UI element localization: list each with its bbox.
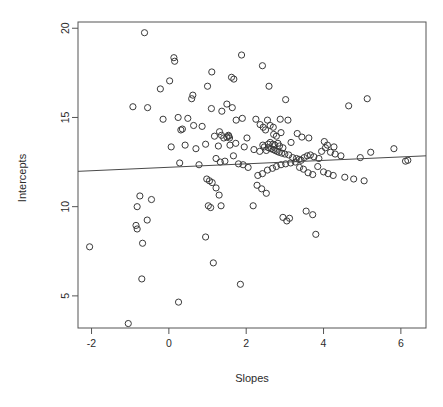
y-tick-label: 20 — [59, 22, 71, 34]
x-tick-label: 4 — [321, 337, 327, 349]
y-tick-label: 15 — [59, 111, 71, 123]
plot-canvas: 5101520 -20246 Slopes Intercepts — [0, 0, 443, 407]
x-axis-title: Slopes — [235, 372, 269, 384]
x-tick-label: -2 — [87, 337, 96, 349]
y-axis-title: Intercepts — [16, 153, 28, 202]
x-tick-label: 6 — [398, 337, 404, 349]
x-tick-label: 2 — [243, 337, 249, 349]
x-tick-label: 0 — [166, 337, 172, 349]
scatter-plot-figure: 5101520 -20246 Slopes Intercepts — [0, 0, 443, 407]
y-tick-label: 10 — [59, 201, 71, 213]
y-tick-label: 5 — [59, 293, 71, 299]
